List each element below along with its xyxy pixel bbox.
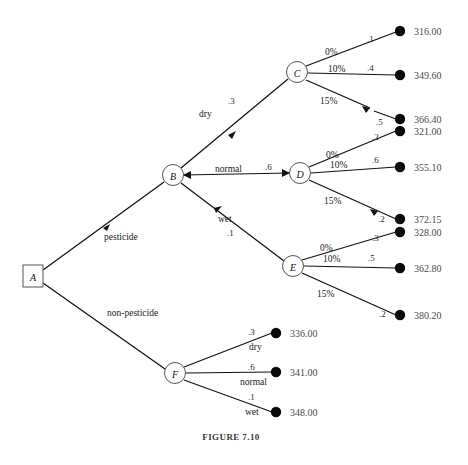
payoff-d-2: 372.15 xyxy=(414,214,442,225)
node-f[interactable]: F xyxy=(165,363,186,384)
terminal-dot-d-2 xyxy=(395,214,405,224)
outcome-group-e: 0% .3 328.00 10% .5 362.80 15% .2 380.20 xyxy=(317,227,442,321)
payoff-d-0: 321.00 xyxy=(414,126,442,137)
outcome-prob-f-1: .6 xyxy=(248,362,255,372)
outcome-label-f-2: wet xyxy=(245,407,259,417)
edge-d-out-1 xyxy=(311,167,396,173)
edge-c-out-0 xyxy=(306,32,396,66)
terminal-dot-f-1 xyxy=(271,367,281,377)
outcome-prob-f-0: .3 xyxy=(248,327,255,337)
outcome-group-d: 0% .2 321.00 10% .6 355.10 15% .2 372.15 xyxy=(324,126,442,225)
terminal-dot-c-2 xyxy=(395,114,405,124)
outcome-pct-c-2: 15% xyxy=(320,96,338,106)
outcome-prob-c-1: .4 xyxy=(367,63,374,73)
arrow-b-to-d xyxy=(282,169,290,177)
outcome-prob-d-0: .2 xyxy=(372,132,379,142)
outcome-edges-from-c xyxy=(300,32,396,119)
node-d[interactable]: D xyxy=(290,163,311,184)
edge-c-out-2 xyxy=(306,80,370,108)
payoff-e-2: 380.20 xyxy=(414,310,442,321)
edge-a-to-b xyxy=(43,182,164,270)
node-e-label: E xyxy=(289,262,296,273)
outcome-group-c: 0% .1 316.00 10% .4 349.60 15% .5 366.40 xyxy=(320,26,442,128)
arrow-b-to-c xyxy=(228,131,236,139)
payoff-f-2: 348.00 xyxy=(290,407,318,418)
terminal-dot-f-2 xyxy=(271,407,281,417)
weather-prob-dry: .3 xyxy=(228,96,235,106)
terminal-dot-e-0 xyxy=(395,227,405,237)
outcome-pct-c-0: 0% xyxy=(325,47,338,57)
weather-label-dry: dry xyxy=(199,109,212,119)
outcome-prob-c-0: .1 xyxy=(367,34,374,44)
outcome-pct-c-1: 10% xyxy=(328,64,346,74)
outcome-pct-d-0: 0% xyxy=(326,150,339,160)
edge-c-out-1 xyxy=(308,73,396,75)
node-c-label: C xyxy=(294,68,301,79)
node-e[interactable]: E xyxy=(283,256,304,277)
payoff-d-1: 355.10 xyxy=(414,162,442,173)
outcome-edges-from-d xyxy=(303,131,396,219)
payoff-f-1: 341.00 xyxy=(290,367,318,378)
outcome-pct-d-2: 15% xyxy=(324,196,342,206)
outcome-label-f-0: dry xyxy=(249,342,262,352)
decision-label-non-pesticide: non-pesticide xyxy=(107,308,158,318)
decision-tree-figure: A B C D E F pesticide non-pesticide xyxy=(0,0,468,465)
outcome-prob-e-1: .5 xyxy=(368,253,375,263)
edge-a-to-f xyxy=(43,283,165,369)
payoff-e-1: 362.80 xyxy=(414,263,442,274)
weather-label-normal: normal xyxy=(215,164,242,174)
weather-prob-normal: .6 xyxy=(265,162,272,172)
payoff-e-0: 328.00 xyxy=(414,227,442,238)
edge-f-out-1 xyxy=(186,372,272,373)
node-a-label: A xyxy=(29,272,37,283)
terminal-dot-c-1 xyxy=(395,70,405,80)
outcome-prob-f-2: .1 xyxy=(248,392,255,402)
edge-e-out-0 xyxy=(302,232,396,260)
outcome-pct-e-0: 0% xyxy=(320,243,333,253)
outcome-prob-e-0: .3 xyxy=(372,233,379,243)
weather-label-wet: wet xyxy=(218,214,232,224)
arrow-b-to-e xyxy=(214,206,222,213)
decision-edges xyxy=(43,182,165,369)
payoff-c-0: 316.00 xyxy=(414,26,442,37)
outcome-prob-d-2: .2 xyxy=(378,214,385,224)
outcome-label-f-1: normal xyxy=(240,377,267,387)
figure-caption: FIGURE 7.10 xyxy=(202,432,260,442)
terminal-dot-d-1 xyxy=(395,162,405,172)
weather-prob-wet: .1 xyxy=(227,228,234,238)
decision-label-pesticide: pesticide xyxy=(104,232,138,242)
terminal-dot-c-0 xyxy=(395,26,405,36)
payoff-f-0: 336.00 xyxy=(290,328,318,339)
decision-tree-canvas: A B C D E F pesticide non-pesticide xyxy=(0,0,468,465)
terminal-dot-e-1 xyxy=(395,263,405,273)
payoff-c-2: 366.40 xyxy=(414,114,442,125)
node-a[interactable]: A xyxy=(23,265,43,287)
edge-e-out-1 xyxy=(304,266,396,268)
terminal-dot-e-2 xyxy=(395,310,405,320)
outcome-prob-c-2: .5 xyxy=(376,117,383,127)
outcome-prob-d-1: .6 xyxy=(372,155,379,165)
outcome-pct-e-2: 15% xyxy=(317,289,335,299)
outcome-edges-from-e xyxy=(296,232,396,315)
node-b-label: B xyxy=(170,171,176,182)
terminal-dot-d-0 xyxy=(395,126,405,136)
terminal-dot-f-0 xyxy=(271,328,281,338)
arrow-head-b-left xyxy=(183,171,191,179)
outcome-prob-e-2: .2 xyxy=(379,309,386,319)
edge-b-to-c xyxy=(181,79,288,168)
outcome-pct-e-1: 10% xyxy=(323,254,341,264)
edge-d-out-0 xyxy=(309,131,396,167)
node-c[interactable]: C xyxy=(287,62,308,83)
payoff-c-1: 349.60 xyxy=(414,70,442,81)
edge-b-to-e xyxy=(181,183,284,261)
node-b[interactable]: B xyxy=(163,165,184,186)
node-d-label: D xyxy=(295,169,304,180)
node-f-label: F xyxy=(171,369,179,380)
outcome-pct-d-1: 10% xyxy=(330,160,348,170)
